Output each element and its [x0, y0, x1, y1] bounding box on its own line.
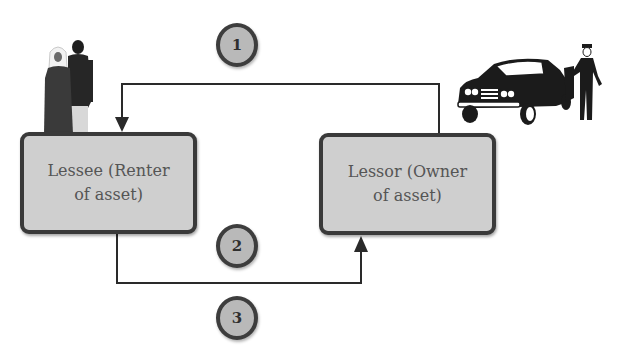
step-2-number: 2 [232, 237, 242, 255]
step-1-badge: 1 [216, 23, 258, 67]
arrow-head-down-icon [115, 117, 129, 132]
step-2-badge: 2 [216, 224, 258, 268]
arrow-lessor-to-lessee [122, 84, 439, 133]
couple-illustration [40, 38, 100, 134]
step-3-badge: 3 [216, 296, 258, 340]
lessor-box: Lessor (Owner of asset) [319, 133, 496, 235]
lessor-label-line2: of asset) [348, 184, 467, 208]
lessee-label: Lessee (Renter of asset) [47, 159, 169, 207]
car-with-chauffeur-illustration [456, 42, 606, 126]
step-3-number: 3 [232, 309, 242, 327]
arrow-head-up-icon [354, 236, 368, 252]
step-1-number: 1 [232, 36, 242, 54]
lease-diagram: Lessee (Renter of asset) Lessor (Owner o… [0, 0, 625, 364]
lessor-label-line1: Lessor (Owner [348, 160, 467, 184]
lessee-label-line1: Lessee (Renter [47, 159, 169, 183]
lessor-label: Lessor (Owner of asset) [348, 160, 467, 208]
lessee-box: Lessee (Renter of asset) [20, 132, 197, 234]
lessee-label-line2: of asset) [47, 183, 169, 207]
